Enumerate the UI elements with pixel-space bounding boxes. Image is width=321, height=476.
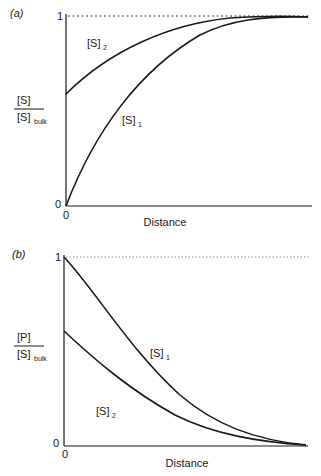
y-tick-1-b: 1 <box>55 251 61 263</box>
ylabel-denominator-sub-a: bulk <box>34 118 47 125</box>
series-label-s2-b: [S] 2 <box>96 405 116 419</box>
series-label-s1-b: [S] 1 <box>150 347 170 361</box>
panel-label-b: (b) <box>12 248 26 260</box>
x-axis-label-b: Distance <box>166 457 209 469</box>
ylabel-numerator-a: [S] <box>17 94 30 106</box>
panel-label-a: (a) <box>10 7 24 19</box>
figure: (a) [S] [S] bulk 1 0 0 [S] 2 [S] 1 Dista… <box>0 0 321 476</box>
ylabel-denominator-a: [S] <box>17 111 30 123</box>
y-tick-0-a: 0 <box>55 198 61 210</box>
curve-s2-b <box>64 331 306 445</box>
panel-b: (b) [P] [S] bulk 1 0 0 [S] 1 [S] 2 Dista… <box>12 248 309 469</box>
label-base: [S] <box>96 405 109 417</box>
panel-a: (a) [S] [S] bulk 1 0 0 [S] 2 [S] 1 Dista… <box>10 7 312 228</box>
ylabel-denominator-sub-b: bulk <box>34 355 47 362</box>
y-tick-0-b: 0 <box>53 437 59 449</box>
series-label-s1-a: [S] 1 <box>122 114 142 128</box>
label-sub: 2 <box>112 412 116 419</box>
y-axis-label-a: [S] [S] bulk <box>14 94 47 125</box>
curve-s2-a <box>66 16 308 94</box>
ylabel-numerator-b: [P] <box>17 331 30 343</box>
ylabel-denominator-b: [S] <box>17 348 30 360</box>
label-sub: 1 <box>166 354 170 361</box>
y-tick-1-a: 1 <box>57 10 63 22</box>
label-sub: 1 <box>138 121 142 128</box>
label-base: [S] <box>87 37 100 49</box>
x-axis-label-a: Distance <box>144 216 187 228</box>
x-tick-0-a: 0 <box>63 209 69 221</box>
label-base: [S] <box>150 347 163 359</box>
label-sub: 2 <box>103 44 107 51</box>
label-base: [S] <box>122 114 135 126</box>
x-tick-0-b: 0 <box>62 448 68 460</box>
series-label-s2-a: [S] 2 <box>87 37 107 51</box>
y-axis-label-b: [P] [S] bulk <box>14 331 47 362</box>
